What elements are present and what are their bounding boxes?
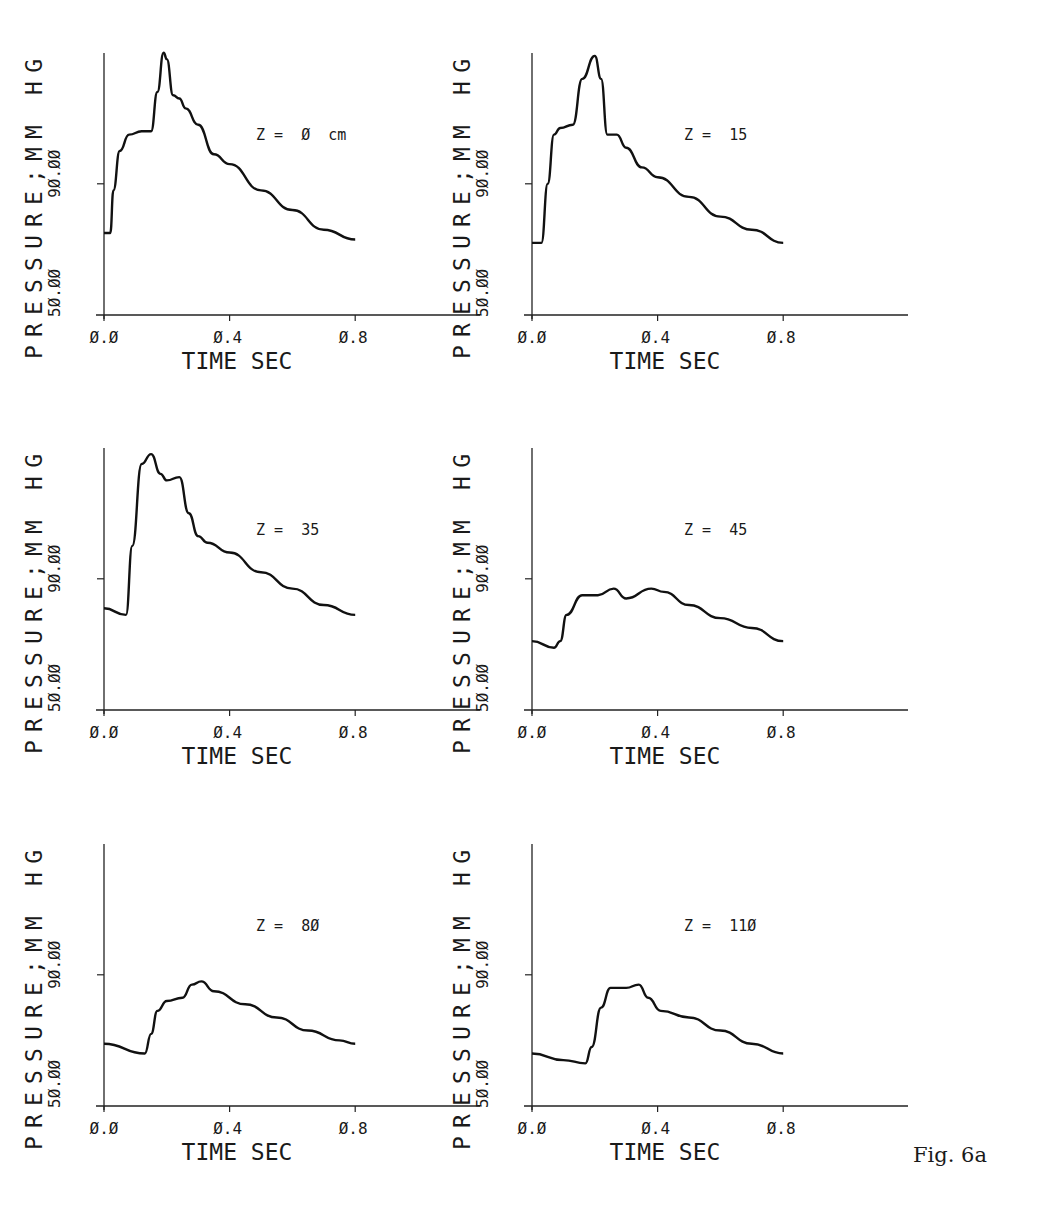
pressure-panel-top-right: Ø.ØØ.4Ø.85Ø.ØØ9Ø.ØØPRESSURE;MM HGTIME SE… [449, 53, 908, 374]
pressure-panel-bottom-left: Ø.ØØ.4Ø.85Ø.ØØ9Ø.ØØPRESSURE;MM HGTIME SE… [21, 844, 480, 1165]
x-tick-label: Ø.Ø [518, 723, 547, 742]
x-tick-label: Ø.4 [641, 328, 670, 347]
y-tick-label: 5Ø.ØØ [473, 663, 492, 712]
x-axis-title: TIME SEC [182, 743, 293, 769]
x-axis-title: TIME SEC [610, 743, 721, 769]
y-tick-label: 5Ø.ØØ [45, 1059, 64, 1108]
x-axis-title: TIME SEC [610, 348, 721, 374]
x-tick-label: Ø.Ø [518, 328, 547, 347]
x-tick-label: Ø.Ø [90, 328, 119, 347]
y-axis-title: PRESSURE;MM HG [449, 850, 475, 1150]
pressure-panel-middle-right: Ø.ØØ.4Ø.85Ø.ØØ9Ø.ØØPRESSURE;MM HGTIME SE… [449, 448, 908, 769]
y-tick-label: 9Ø.ØØ [473, 149, 492, 198]
x-tick-label: Ø.4 [213, 328, 242, 347]
pressure-waveform [532, 985, 783, 1064]
pressure-panel-top-left: Ø.ØØ.4Ø.85Ø.ØØ9Ø.ØØPRESSURE;MM HGTIME SE… [21, 53, 480, 374]
y-axis-title: PRESSURE;MM HG [21, 454, 47, 754]
x-tick-label: Ø.4 [213, 1119, 242, 1138]
x-tick-label: Ø.Ø [90, 1119, 119, 1138]
y-axis-title: PRESSURE;MM HG [449, 59, 475, 359]
x-tick-label: Ø.8 [339, 723, 368, 742]
x-tick-label: Ø.4 [213, 723, 242, 742]
depth-annotation: Z = 15 [684, 126, 747, 144]
y-axis-title: PRESSURE;MM HG [449, 454, 475, 754]
y-tick-label: 9Ø.ØØ [473, 544, 492, 593]
x-tick-label: Ø.Ø [90, 723, 119, 742]
pressure-panel-middle-left: Ø.ØØ.4Ø.85Ø.ØØ9Ø.ØØPRESSURE;MM HGTIME SE… [21, 448, 480, 769]
pressure-waveform [532, 589, 783, 648]
y-axis-title: PRESSURE;MM HG [21, 59, 47, 359]
pressure-waveform [104, 981, 355, 1053]
x-tick-label: Ø.8 [767, 328, 796, 347]
x-axis-title: TIME SEC [182, 348, 293, 374]
x-tick-label: Ø.8 [767, 723, 796, 742]
x-tick-label: Ø.8 [767, 1119, 796, 1138]
depth-annotation: Z = 45 [684, 521, 747, 539]
y-tick-label: 5Ø.ØØ [45, 268, 64, 317]
x-tick-label: Ø.4 [641, 723, 670, 742]
depth-annotation: Z = 8Ø [256, 917, 319, 935]
x-tick-label: Ø.8 [339, 1119, 368, 1138]
pressure-panel-bottom-right: Ø.ØØ.4Ø.85Ø.ØØ9Ø.ØØPRESSURE;MM HGTIME SE… [449, 844, 908, 1165]
y-tick-label: 9Ø.ØØ [45, 544, 64, 593]
y-tick-label: 9Ø.ØØ [45, 149, 64, 198]
depth-annotation: Z = 35 [256, 521, 319, 539]
x-tick-label: Ø.8 [339, 328, 368, 347]
pressure-waveform [104, 53, 355, 240]
x-tick-label: Ø.4 [641, 1119, 670, 1138]
y-tick-label: 5Ø.ØØ [473, 1059, 492, 1108]
x-tick-label: Ø.Ø [518, 1119, 547, 1138]
y-axis-title: PRESSURE;MM HG [21, 850, 47, 1150]
y-tick-label: 5Ø.ØØ [45, 663, 64, 712]
pressure-waveform [532, 56, 783, 243]
x-axis-title: TIME SEC [610, 1139, 721, 1165]
figure-caption: Fig. 6a [913, 1143, 987, 1167]
figure-canvas: Ø.ØØ.4Ø.85Ø.ØØ9Ø.ØØPRESSURE;MM HGTIME SE… [0, 0, 1045, 1222]
y-tick-label: 9Ø.ØØ [473, 940, 492, 989]
y-tick-label: 5Ø.ØØ [473, 268, 492, 317]
depth-annotation: Z = Ø cm [256, 126, 346, 144]
x-axis-title: TIME SEC [182, 1139, 293, 1165]
y-tick-label: 9Ø.ØØ [45, 940, 64, 989]
depth-annotation: Z = 11Ø [684, 917, 756, 935]
